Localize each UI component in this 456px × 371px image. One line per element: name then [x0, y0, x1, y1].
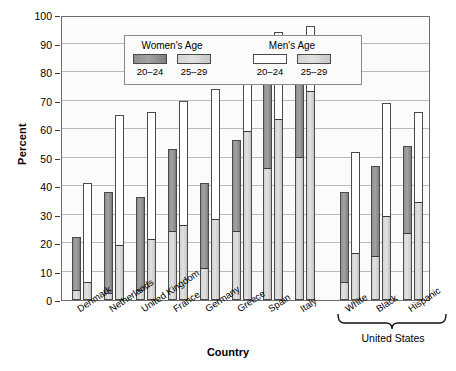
y-tick-mark-0 — [55, 301, 60, 302]
plot-area: Women's Age 20–24 25–29 Men's Age — [61, 16, 430, 301]
bar-women-hispanic-lower-segment — [404, 233, 411, 299]
y-tick-label-100: 100 — [34, 10, 52, 22]
bar-men-greece — [243, 69, 252, 300]
bar-women-spain — [263, 55, 272, 300]
bar-women-black — [371, 166, 380, 300]
bar-women-france — [168, 149, 177, 300]
bar-women-denmark-lower-segment — [73, 290, 80, 299]
legend-entry-men-25-29: 25–29 — [297, 54, 331, 77]
y-tick-mark-40 — [55, 187, 60, 188]
y-tick-label-20: 20 — [40, 238, 52, 250]
bar-men-denmark — [83, 183, 92, 300]
bar-men-black — [382, 103, 391, 300]
bar-women-spain-lower-segment — [264, 168, 271, 299]
legend-entry-women-25-29: 25–29 — [177, 54, 211, 77]
legend-swatch-men-25-29 — [297, 54, 331, 64]
bar-men-italy-lower-segment — [307, 91, 314, 299]
legend-swatch-women-25-29 — [177, 54, 211, 64]
united-states-group-label: United States — [338, 332, 448, 344]
y-tick-label-50: 50 — [40, 153, 52, 165]
y-tick-label-60: 60 — [40, 124, 52, 136]
y-tick-label-0: 0 — [46, 295, 52, 307]
x-axis-title: Country — [0, 346, 456, 358]
legend-entry-women-20-24: 20–24 — [133, 54, 167, 77]
bar-women-greece — [232, 140, 241, 300]
bar-women-italy-lower-segment — [296, 157, 303, 300]
bar-women-germany — [200, 183, 209, 300]
y-tick-mark-70 — [55, 102, 60, 103]
y-tick-mark-60 — [55, 130, 60, 131]
bar-men-netherlands-lower-segment — [116, 245, 123, 299]
y-tick-mark-80 — [55, 73, 60, 74]
y-tick-mark-90 — [55, 45, 60, 46]
legend-label-women-25-29: 25–29 — [177, 66, 211, 77]
legend-group-women: Women's Age 20–24 25–29 — [133, 40, 211, 77]
bar-men-germany — [211, 89, 220, 300]
y-axis-title: Percent — [16, 104, 28, 184]
y-tick-mark-30 — [55, 216, 60, 217]
chart-container: Percent Women's Age 20–24 25–29 — [0, 0, 456, 371]
y-tick-label-10: 10 — [40, 267, 52, 279]
bar-women-white — [340, 192, 349, 300]
legend-group-men-title: Men's Age — [253, 40, 331, 51]
bar-men-france — [179, 101, 188, 301]
legend-group-women-title: Women's Age — [133, 40, 211, 51]
y-tick-mark-50 — [55, 159, 60, 160]
legend-swatch-women-20-24 — [133, 54, 167, 64]
bar-men-germany-lower-segment — [212, 219, 219, 299]
bar-women-white-lower-segment — [341, 282, 348, 299]
bar-men-white — [351, 152, 360, 300]
bar-men-hispanic — [414, 112, 423, 300]
bar-men-white-lower-segment — [352, 253, 359, 299]
y-tick-label-90: 90 — [40, 39, 52, 51]
y-tick-label-40: 40 — [40, 181, 52, 193]
bar-women-denmark — [72, 237, 81, 300]
y-tick-label-30: 30 — [40, 210, 52, 222]
y-tick-label-80: 80 — [40, 67, 52, 79]
bar-women-hispanic — [403, 146, 412, 300]
y-tick-mark-100 — [55, 16, 60, 17]
bar-women-germany-lower-segment — [201, 268, 208, 299]
legend-label-men-25-29: 25–29 — [297, 66, 331, 77]
bar-men-united-kingdom — [147, 112, 156, 300]
y-tick-label-70: 70 — [40, 96, 52, 108]
bar-men-black-lower-segment — [383, 216, 390, 299]
bar-men-netherlands — [115, 115, 124, 300]
bar-women-black-lower-segment — [372, 256, 379, 299]
legend-swatch-men-20-24 — [253, 54, 287, 64]
legend-entry-men-20-24: 20–24 — [253, 54, 287, 77]
legend-group-men: Men's Age 20–24 25–29 — [253, 40, 331, 77]
bar-men-greece-lower-segment — [244, 131, 251, 299]
bar-men-hispanic-lower-segment — [415, 202, 422, 299]
bar-men-spain-lower-segment — [275, 119, 282, 299]
y-tick-mark-20 — [55, 244, 60, 245]
y-tick-mark-10 — [55, 273, 60, 274]
legend-label-women-20-24: 20–24 — [133, 66, 167, 77]
legend-label-men-20-24: 20–24 — [253, 66, 287, 77]
united-states-bracket — [336, 312, 448, 330]
chart-legend: Women's Age 20–24 25–29 Men's Age — [124, 35, 362, 85]
